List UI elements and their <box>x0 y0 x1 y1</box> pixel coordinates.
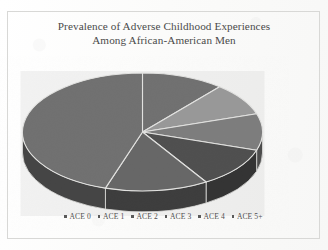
pie-grain-overlay <box>21 71 265 216</box>
legend-marker-icon <box>98 215 101 218</box>
legend-item-label: ACE 3 <box>170 212 191 221</box>
legend-item-ace-1[interactable]: ACE 1 <box>98 212 124 221</box>
legend-item-ace-2[interactable]: ACE 2 <box>131 212 157 221</box>
legend-item-ace-3[interactable]: ACE 3 <box>165 212 191 221</box>
legend-marker-icon <box>165 215 168 218</box>
legend-item-label: ACE 2 <box>136 212 157 221</box>
legend-item-label: ACE 1 <box>103 212 124 221</box>
legend-item-ace-0[interactable]: ACE 0 <box>64 212 90 221</box>
chart-legend: ACE 0ACE 1ACE 2ACE 3ACE 4ACE 5+ <box>7 212 320 221</box>
legend-item-label: ACE 4 <box>203 212 224 221</box>
pie-scan-grain <box>21 71 265 216</box>
legend-item-label: ACE 5+ <box>237 212 263 221</box>
legend-marker-icon <box>64 215 67 218</box>
legend-marker-icon <box>131 215 134 218</box>
legend-item-ace-4[interactable]: ACE 4 <box>198 212 224 221</box>
legend-marker-icon <box>232 215 235 218</box>
legend-item-label: ACE 0 <box>69 212 90 221</box>
legend-item-ace-5[interactable]: ACE 5+ <box>232 212 263 221</box>
chart-page: Prevalence of Adverse Childhood Experien… <box>0 0 328 250</box>
legend-marker-icon <box>198 215 201 218</box>
